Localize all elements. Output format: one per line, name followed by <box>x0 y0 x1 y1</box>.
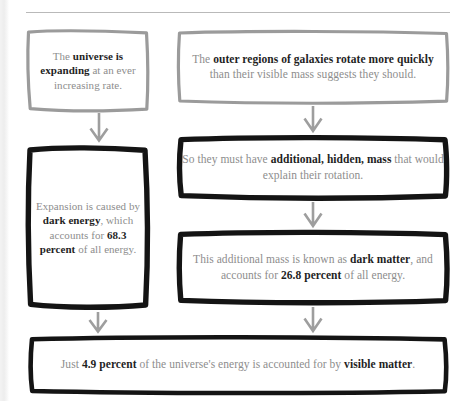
flow-node-galaxy-rotation: The outer regions of galaxies rotate mor… <box>175 29 451 105</box>
flow-node-text: The outer regions of galaxies rotate mor… <box>175 52 451 83</box>
page-edge-strip <box>0 0 9 401</box>
flow-node-text: So they must have additional, hidden, ma… <box>175 152 451 183</box>
flow-node-text: Just 4.9 percent of the universe's energ… <box>55 357 421 373</box>
emphasised-text: outer regions of galaxies rotate more qu… <box>213 53 434 65</box>
emphasised-text: dark energy <box>43 214 101 226</box>
flow-node-text: Expansion is caused by dark energy, whic… <box>25 199 151 257</box>
flow-node-dark-energy: Expansion is caused by dark energy, whic… <box>25 144 151 311</box>
emphasised-text: dark matter <box>350 253 410 265</box>
flow-arrow-dark-energy-to-visible-matter <box>84 312 112 334</box>
emphasised-text: 4.9 percent <box>82 358 137 370</box>
flow-node-dark-matter: This additional mass is known as dark ma… <box>175 229 451 306</box>
flow-arrow-galaxy-to-hidden-mass <box>299 106 327 134</box>
flow-node-hidden-mass: So they must have additional, hidden, ma… <box>175 134 451 201</box>
flow-node-text: The universe is expanding at an ever inc… <box>25 49 151 93</box>
flow-node-text: This additional mass is known as dark ma… <box>175 252 451 283</box>
flow-node-universe-expanding: The universe is expanding at an ever inc… <box>25 28 151 113</box>
flow-arrow-dark-matter-to-visible-matter <box>299 307 327 334</box>
emphasised-text: additional, hidden, mass <box>271 153 392 165</box>
flow-arrow-expanding-to-dark-energy <box>85 113 113 144</box>
flow-arrow-hidden-mass-to-dark-matter <box>299 202 327 229</box>
flowchart-canvas: The universe is expanding at an ever inc… <box>0 0 476 401</box>
flow-node-visible-matter: Just 4.9 percent of the universe's energ… <box>25 334 451 396</box>
header-divider-rule <box>26 12 450 13</box>
emphasised-text: 26.8 percent <box>281 269 341 281</box>
emphasised-text: visible matter <box>344 358 412 370</box>
